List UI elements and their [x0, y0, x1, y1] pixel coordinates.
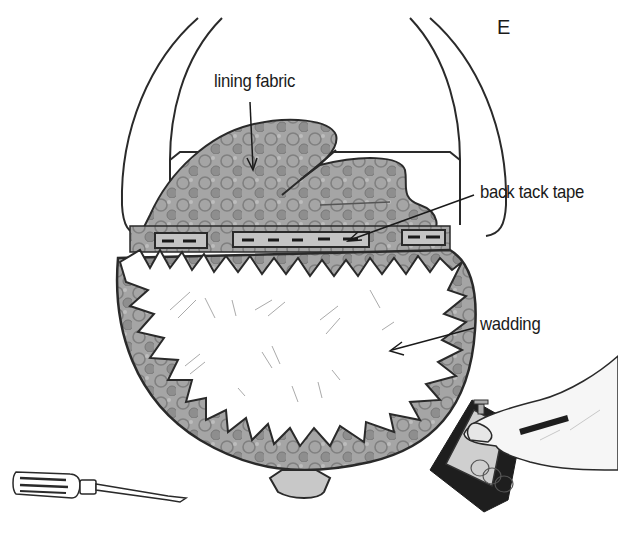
upholstery-diagram — [0, 0, 618, 540]
back-tack-tape-band — [130, 226, 450, 252]
lining-fabric — [140, 120, 437, 235]
step-letter: E — [497, 16, 510, 39]
label-lining-fabric: lining fabric — [214, 70, 295, 92]
label-wadding: wadding — [480, 313, 540, 335]
screwdriver — [13, 472, 186, 502]
label-back-tack-tape: back tack tape — [480, 181, 584, 203]
